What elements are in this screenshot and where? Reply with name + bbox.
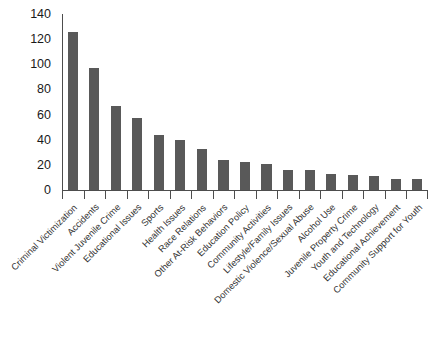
bar: [326, 174, 336, 190]
y-axis-tick-label: 100: [30, 58, 51, 71]
bar: [412, 179, 422, 190]
y-axis-tick-labels: 020406080100120140: [0, 0, 58, 344]
bar: [132, 118, 142, 190]
x-axis-ticks: [62, 191, 428, 199]
x-axis-tick: [342, 191, 343, 199]
x-axis-tick: [84, 191, 85, 199]
x-axis-tick: [105, 191, 106, 199]
bar: [111, 106, 121, 190]
y-axis-tick-label: 140: [30, 8, 51, 21]
x-axis-tick: [277, 191, 278, 199]
y-axis-tick-label: 0: [44, 184, 51, 197]
x-axis-tick: [170, 191, 171, 199]
bar: [261, 164, 271, 190]
bar: [283, 170, 293, 190]
x-axis-tick: [234, 191, 235, 199]
x-axis-tick: [427, 191, 428, 199]
x-axis-tick: [62, 191, 63, 199]
x-axis-tick: [299, 191, 300, 199]
bar: [348, 175, 358, 190]
bar: [391, 179, 401, 190]
y-axis-tick-label: 40: [37, 133, 51, 146]
bar: [154, 135, 164, 190]
y-axis-tick-label: 60: [37, 108, 51, 121]
x-axis-tick: [406, 191, 407, 199]
bar: [240, 162, 250, 190]
x-axis-tick: [256, 191, 257, 199]
bar: [175, 140, 185, 190]
bar: [218, 160, 228, 190]
bar: [369, 176, 379, 190]
x-axis-tick: [213, 191, 214, 199]
y-axis-tick-label: 80: [37, 83, 51, 96]
x-axis-tick: [127, 191, 128, 199]
bar: [305, 170, 315, 190]
x-axis-tick: [363, 191, 364, 199]
bar: [89, 68, 99, 190]
bar: [68, 32, 78, 190]
bar-chart: 020406080100120140 Criminal Victimizatio…: [0, 0, 434, 344]
x-axis-tick: [320, 191, 321, 199]
bar: [197, 149, 207, 190]
y-axis-tick-label: 120: [30, 33, 51, 46]
y-axis-tick-label: 20: [37, 159, 51, 172]
bars-container: [62, 14, 428, 190]
x-axis-tick: [385, 191, 386, 199]
x-axis-tick: [191, 191, 192, 199]
x-axis-tick: [148, 191, 149, 199]
